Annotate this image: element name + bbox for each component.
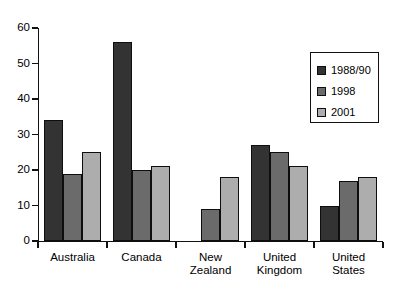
bar (220, 177, 239, 241)
legend-item: 2001 (317, 102, 378, 123)
bar-group (251, 28, 308, 241)
y-tick-label: 0 (2, 235, 30, 247)
bar (251, 145, 270, 241)
chart-legend: 1988/9019982001 (310, 52, 379, 123)
category-label: New Zealand (176, 251, 245, 277)
legend-swatch-icon (317, 87, 326, 96)
legend-item: 1988/90 (317, 60, 378, 81)
y-tick-label-wrap: 10 (0, 200, 30, 212)
bar (339, 181, 358, 241)
x-tick-mark (244, 242, 245, 248)
x-tick-mark (175, 242, 176, 248)
bar-chart: 0102030405060 AustraliaCanadaNew Zealand… (0, 0, 401, 293)
x-tick-mark (37, 242, 38, 248)
bar (151, 166, 170, 241)
y-tick-label: 60 (2, 22, 30, 34)
y-tick-label-wrap: 20 (0, 164, 30, 176)
x-tick-mark (382, 242, 383, 248)
legend-swatch-icon (317, 66, 326, 75)
bar (44, 120, 63, 241)
bar-group (182, 28, 239, 241)
x-axis-line (38, 241, 383, 242)
legend-label: 2001 (331, 107, 355, 118)
y-tick-label: 40 (2, 93, 30, 105)
bar-group (44, 28, 101, 241)
bar (113, 42, 132, 241)
bar (201, 209, 220, 241)
bar (289, 166, 308, 241)
y-tick-label: 10 (2, 200, 30, 212)
category-label: Australia (38, 251, 107, 264)
category-label: United Kingdom (245, 251, 314, 277)
y-tick-label-wrap: 60 (0, 22, 30, 34)
x-tick-mark (313, 242, 314, 248)
x-tick-mark (106, 242, 107, 248)
y-tick-label: 50 (2, 58, 30, 70)
legend-item: 1998 (317, 81, 378, 102)
category-label: United States (314, 251, 383, 277)
legend-swatch-icon (317, 108, 326, 117)
bar (82, 152, 101, 241)
bar (132, 170, 151, 241)
legend-label: 1998 (331, 86, 355, 97)
y-tick-label-wrap: 50 (0, 58, 30, 70)
bar (63, 174, 82, 241)
category-label: Canada (107, 251, 176, 264)
y-tick-label-wrap: 40 (0, 93, 30, 105)
bar-group (113, 28, 170, 241)
y-tick-label: 20 (2, 164, 30, 176)
bar (358, 177, 377, 241)
y-tick-label-wrap: 30 (0, 129, 30, 141)
y-tick-label-wrap: 0 (0, 235, 30, 247)
y-tick-label: 30 (2, 129, 30, 141)
bar (270, 152, 289, 241)
bar (320, 206, 339, 242)
legend-label: 1988/90 (331, 65, 371, 76)
